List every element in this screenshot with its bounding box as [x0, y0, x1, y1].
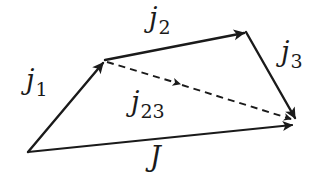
label-j3-subscript: 3: [290, 50, 302, 72]
vector-j23-segment-b: [182, 85, 291, 119]
label-j23-base: j: [131, 86, 139, 117]
label-j3-base: j: [281, 36, 289, 67]
label-j1-subscript: 1: [35, 78, 47, 100]
vector-diagram-figure: j1 j2 j3 j23 J: [0, 0, 321, 174]
label-j23-subscript: 23: [140, 100, 164, 122]
label-j3: j3: [281, 38, 301, 65]
label-j2: j2: [149, 4, 169, 31]
label-J: J: [150, 143, 161, 170]
label-j1-base: j: [26, 64, 34, 95]
label-J-base: J: [150, 141, 161, 172]
vector-j2-line: [105, 33, 244, 60]
label-j2-base: j: [149, 2, 157, 33]
vector-j23-segment-a: [107, 62, 177, 83]
label-j1: j1: [26, 66, 46, 93]
label-j23: j23: [131, 88, 164, 115]
label-j2-subscript: 2: [158, 16, 170, 38]
